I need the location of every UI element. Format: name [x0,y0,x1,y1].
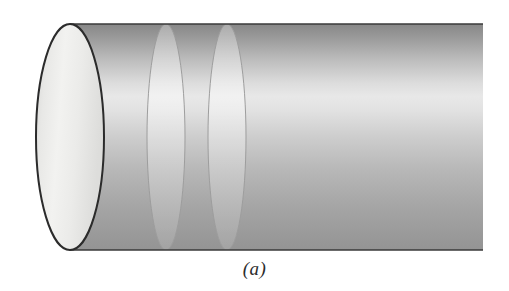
cross-section-ellipse-1 [147,24,185,250]
cylinder-end-cap [36,24,104,250]
figure-caption: (a) [0,258,509,280]
cross-section-ellipse-2 [208,24,246,250]
cylinder-illustration [0,0,509,291]
figure-container: (a) [0,0,509,291]
